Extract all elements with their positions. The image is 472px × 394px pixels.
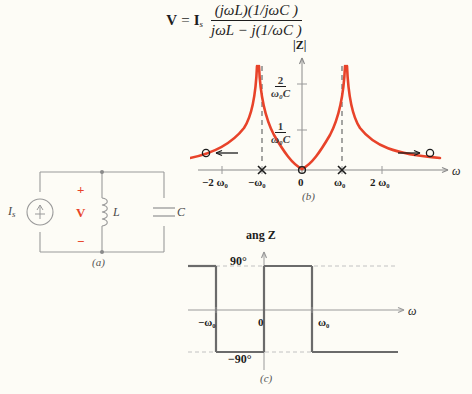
- capacitor-plates-icon: [153, 208, 175, 216]
- capacitor-label: C: [177, 205, 185, 220]
- phase-x-tick-label-zero: 0: [258, 316, 264, 328]
- equation-numerator: (jωL)(1/jωC ): [211, 2, 302, 21]
- equation-fraction: (jωL)(1/jωC ) jωL − j(1/ωC ): [207, 2, 306, 40]
- voltage-label: V: [76, 205, 85, 221]
- equation-source-subscript: s: [200, 19, 204, 29]
- minus-polarity-label: −: [77, 234, 84, 250]
- magnitude-plot: |Z| ω 2ω₀C 1ω₀C −2 ω₀ −ω₀ 0 ω₀ 2 ω₀ (b): [190, 40, 472, 212]
- phase-x-tick-label-minus-w0: −ω₀: [198, 316, 216, 328]
- phase-square-wave: [188, 266, 398, 352]
- equation-source-symbol: Is: [194, 12, 203, 29]
- phase-x-tick-label-w0: ω₀: [318, 316, 329, 328]
- phase-level-label-plus-90: 90°: [230, 254, 247, 269]
- inductor-coil-icon: [102, 198, 107, 226]
- phase-y-axis-label: ang Z: [246, 228, 276, 243]
- magnitude-x-axis-label: ω: [452, 164, 460, 179]
- x-tick-label-w0: ω₀: [334, 176, 345, 188]
- circuit-caption: (a): [92, 256, 105, 268]
- equation-equals: =: [181, 12, 189, 29]
- phase-plot: ang Z ω 90° −90° −ω₀ 0 ω₀ (c): [178, 232, 440, 390]
- y-tick-label-2-over-w0C: 2ω₀C: [268, 70, 293, 99]
- circuit-diagram: Is + V − L C (a): [14, 158, 184, 266]
- phase-plot-caption: (c): [260, 372, 272, 384]
- y-tick-label-1-over-w0C: 1ω₀C: [268, 116, 293, 145]
- x-tick-label-minus-w0: −ω₀: [248, 176, 266, 188]
- phase-x-axis-label: ω: [408, 304, 416, 319]
- phase-level-label-minus-90: −90°: [228, 352, 252, 367]
- equation-denominator: jωL − j(1/ωC ): [207, 21, 306, 39]
- x-tick-label-2w0: 2 ω₀: [370, 176, 390, 188]
- equation-lhs: V: [166, 12, 177, 29]
- inductor-label: L: [113, 205, 120, 220]
- plus-polarity-label: +: [77, 182, 84, 198]
- x-tick-label-zero: 0: [298, 176, 304, 188]
- magnitude-plot-caption: (b): [302, 190, 315, 202]
- impedance-equation: V = Is (jωL)(1/jωC ) jωL − j(1/ωC ): [0, 2, 472, 40]
- magnitude-y-axis-label: |Z|: [293, 38, 306, 53]
- source-label: Is: [8, 204, 16, 219]
- x-tick-label-minus-2w0: −2 ω₀: [202, 176, 228, 188]
